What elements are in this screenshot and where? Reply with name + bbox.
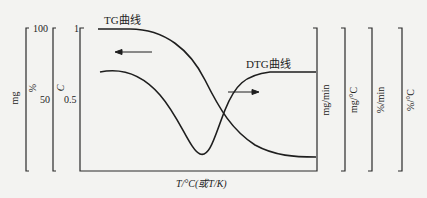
mg-per-c-axis-bracket — [341, 28, 345, 171]
c-unit-label: C — [55, 84, 66, 91]
mg-per-c-unit-label: mg/°C — [348, 87, 359, 114]
tick-50: 50 — [40, 94, 50, 105]
percent-per-min-unit-label: %/min — [375, 87, 386, 114]
x-axis-label: T/°C(或T/K) — [176, 178, 227, 190]
percent-unit-label: % — [27, 84, 38, 92]
mg-per-min-unit-label: mg/min — [320, 84, 331, 115]
mg-unit-label: mg — [9, 92, 20, 105]
left-arrow-icon — [115, 50, 122, 55]
percent-per-min-axis-bracket — [368, 28, 372, 171]
tick-1: 1 — [74, 23, 79, 34]
mg-axis-bracket — [26, 28, 29, 171]
tick-100: 100 — [33, 23, 48, 34]
right-arrow-icon — [252, 90, 259, 95]
dtg-curve-label: DTG曲线 — [246, 57, 291, 70]
percent-axis-bracket — [53, 28, 56, 171]
tick-0-5: 0.5 — [64, 94, 77, 105]
plot-frame — [80, 28, 317, 171]
dtg-curve — [100, 71, 316, 155]
percent-per-c-unit-label: %/°C — [405, 89, 416, 111]
tg-curve-label: TG曲线 — [104, 13, 141, 26]
tg-curve — [98, 29, 316, 157]
tg-dtg-diagram: TG曲线 DTG曲线 T/°C(或T/K) 100 50 1 0.5 mg % … — [0, 0, 427, 198]
percent-per-c-axis-bracket — [398, 28, 402, 171]
